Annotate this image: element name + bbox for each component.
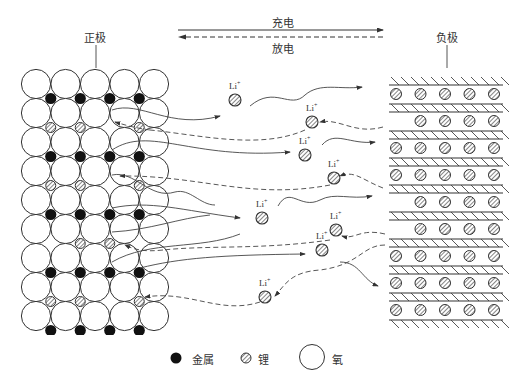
oxygen-icon: [300, 345, 325, 370]
metal-icon: [171, 353, 182, 364]
anode-label: 负极: [436, 29, 458, 45]
legend-label-metal: 金属: [192, 351, 214, 367]
ion-label: Li+: [299, 135, 310, 146]
ion-label: Li+: [256, 198, 267, 209]
anode-graphite: [389, 77, 509, 328]
ion-label: Li+: [306, 102, 317, 113]
ion-label: Li+: [328, 158, 339, 169]
legend-label-lithium: 锂: [258, 351, 269, 367]
discharge-arrow: [178, 35, 383, 40]
charge-label: 充电: [272, 14, 294, 30]
ion-label: Li+: [259, 277, 270, 288]
battery-diagram: [0, 0, 519, 391]
ion-label: Li+: [316, 230, 327, 241]
ion-label: Li+: [229, 80, 240, 91]
ion-label: Li+: [330, 210, 341, 221]
lithium-icon: [241, 353, 251, 363]
discharge-label: 放电: [272, 40, 294, 56]
cathode-label: 正极: [84, 29, 106, 45]
legend-label-oxygen: 氧: [332, 351, 343, 367]
